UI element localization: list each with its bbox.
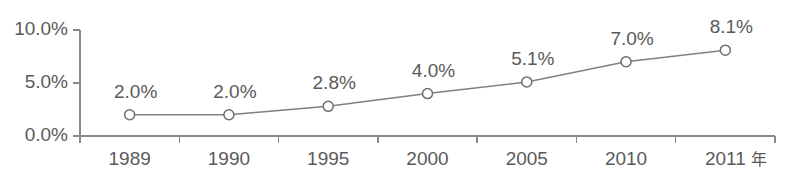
- chart-canvas: 0.0%5.0%10.0% 19891990199520002005201020…: [0, 0, 789, 185]
- x-axis-tick-label: 1990: [208, 148, 250, 169]
- data-point-label: 2.0%: [114, 81, 157, 102]
- x-axis-unit-label: 年: [751, 151, 767, 168]
- data-point-label: 2.8%: [313, 72, 356, 93]
- data-point-marker: [224, 110, 234, 120]
- data-point-marker: [720, 45, 730, 55]
- data-point-marker: [522, 77, 532, 87]
- data-point-label: 8.1%: [710, 16, 753, 37]
- data-point-label: 5.1%: [511, 48, 554, 69]
- x-axis-tick-label: 2011: [705, 148, 746, 169]
- y-axis-ticks: [73, 30, 80, 136]
- x-axis-tick-labels: 1989199019952000200520102011: [109, 148, 746, 169]
- y-axis-group: 0.0%5.0%10.0%: [14, 18, 80, 145]
- y-axis-tick-labels: 0.0%5.0%10.0%: [14, 18, 68, 145]
- data-point-marker: [323, 101, 333, 111]
- data-point-label: 4.0%: [412, 60, 455, 81]
- x-axis-tick-label: 1989: [109, 148, 151, 169]
- y-axis-tick-label: 5.0%: [25, 71, 68, 92]
- line-chart-figure: 0.0%5.0%10.0% 19891990199520002005201020…: [0, 0, 789, 185]
- data-point-label: 7.0%: [610, 28, 653, 49]
- y-axis-tick-label: 10.0%: [14, 18, 68, 39]
- y-axis-tick-label: 0.0%: [25, 124, 68, 145]
- x-axis-tick-label: 2005: [506, 148, 548, 169]
- series-point-labels: 2.0%2.0%2.8%4.0%5.1%7.0%8.1%: [114, 16, 753, 102]
- x-axis-group: 1989199019952000200520102011 年: [80, 136, 775, 169]
- series-group: 2.0%2.0%2.8%4.0%5.1%7.0%8.1%: [114, 16, 753, 120]
- data-point-marker: [621, 57, 631, 67]
- x-axis-tick-label: 2000: [406, 148, 448, 169]
- data-point-label: 2.0%: [213, 81, 256, 102]
- x-axis-tick-label: 1995: [307, 148, 349, 169]
- data-point-marker: [125, 110, 135, 120]
- x-axis-ticks: [80, 136, 775, 143]
- x-axis-tick-label: 2010: [605, 148, 647, 169]
- data-point-marker: [423, 89, 433, 99]
